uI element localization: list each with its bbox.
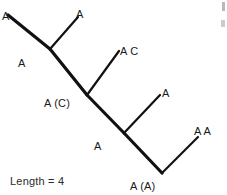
node-label-3: A (94, 141, 102, 152)
tip-label-3: A C (120, 46, 138, 57)
branch-tip1 (8, 15, 50, 49)
node-label-1: A (18, 58, 26, 69)
branch-tip5 (162, 137, 198, 173)
tip-label-4: A (162, 88, 170, 99)
branch-tip4 (124, 95, 160, 133)
tip-label-2: A (76, 9, 84, 20)
branch-tip3 (87, 51, 119, 95)
branch-trunk-2 (87, 95, 124, 133)
tip-label-1: A (2, 11, 10, 22)
scan-artifact-lower (221, 20, 225, 27)
node-label-4: A (A) (130, 181, 155, 192)
branch-trunk-1 (50, 49, 87, 95)
scan-artifact-top (222, 2, 225, 11)
tree-length-label: Length = 4 (10, 176, 64, 187)
node-label-2: A (C) (44, 98, 70, 109)
branch-tip2 (50, 17, 78, 49)
tree-branch-diagram (0, 0, 227, 195)
branch-trunk-3 (124, 133, 162, 173)
phylogenetic-tree-figure: A A A C A A A A A (C) A A (A) Length = 4 (0, 0, 227, 195)
tip-label-5: A A (194, 126, 211, 137)
